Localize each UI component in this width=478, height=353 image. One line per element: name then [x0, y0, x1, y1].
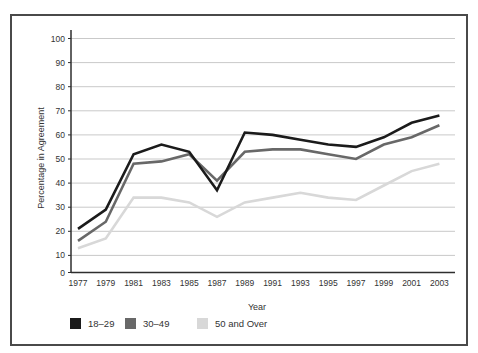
- legend-item: 50 and Over: [197, 317, 267, 330]
- legend-swatch-icon: [70, 318, 81, 329]
- legend-label: 18–29: [88, 318, 114, 329]
- x-tick-label: 1987: [203, 278, 231, 288]
- y-tick-label: 10: [35, 250, 65, 260]
- y-tick-label: 100: [35, 34, 65, 44]
- x-axis-title: Year: [248, 302, 266, 312]
- y-tick-label: 0: [35, 268, 65, 278]
- data-line-series: [78, 164, 439, 248]
- x-tick-label: 1983: [147, 278, 175, 288]
- legend-label: 50 and Over: [215, 318, 267, 329]
- x-tick-label: 1979: [92, 278, 120, 288]
- x-tick-label: 1977: [64, 278, 92, 288]
- figure-screenshot: 1009080706050403020100 19771979198119831…: [0, 0, 478, 353]
- x-tick-label: 1989: [231, 278, 259, 288]
- y-tick-label: 80: [35, 82, 65, 92]
- y-axis-title: Percentage in Agreement: [36, 107, 46, 209]
- legend-item: 18–29: [70, 317, 114, 330]
- data-line-series: [78, 116, 439, 229]
- legend-label: 30–49: [143, 318, 169, 329]
- legend-swatch-icon: [197, 318, 208, 329]
- legend-swatch-icon: [125, 318, 136, 329]
- x-tick-label: 1999: [370, 278, 398, 288]
- x-tick-label: 1993: [286, 278, 314, 288]
- y-tick-label: 90: [35, 58, 65, 68]
- x-tick-label: 1997: [342, 278, 370, 288]
- x-tick-label: 1985: [175, 278, 203, 288]
- line-chart: [0, 0, 478, 353]
- legend-item: 30–49: [125, 317, 169, 330]
- x-tick-label: 1995: [314, 278, 342, 288]
- y-tick-label: 20: [35, 226, 65, 236]
- x-tick-label: 1981: [120, 278, 148, 288]
- x-tick-label: 1991: [259, 278, 287, 288]
- x-tick-label: 2003: [425, 278, 453, 288]
- x-tick-label: 2001: [398, 278, 426, 288]
